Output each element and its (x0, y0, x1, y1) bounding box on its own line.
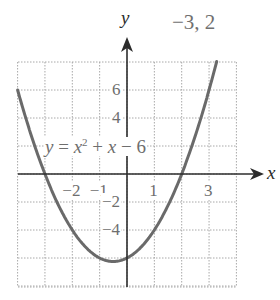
equation-x-linear: x (108, 136, 116, 157)
x-tick-label: 1 (148, 182, 159, 199)
x-tick-label: 3 (203, 182, 214, 199)
equation-x: x (74, 136, 82, 157)
equation-plus: + (88, 136, 108, 157)
y-axis-label: y (121, 8, 129, 27)
equation-constant: − 6 (116, 136, 146, 157)
answer-text: −3, 2 (172, 10, 215, 35)
y-tick-label: 6 (111, 81, 122, 98)
x-tick-label: −2 (61, 182, 81, 199)
equation-eq: = (53, 136, 73, 157)
y-tick-label: 4 (111, 109, 122, 126)
y-tick-label: −2 (101, 193, 121, 210)
y-tick-label: −4 (101, 221, 121, 238)
axes (18, 37, 264, 287)
equation-label: y = x2 + x − 6 (44, 137, 147, 156)
x-axis-label: x (267, 163, 275, 182)
